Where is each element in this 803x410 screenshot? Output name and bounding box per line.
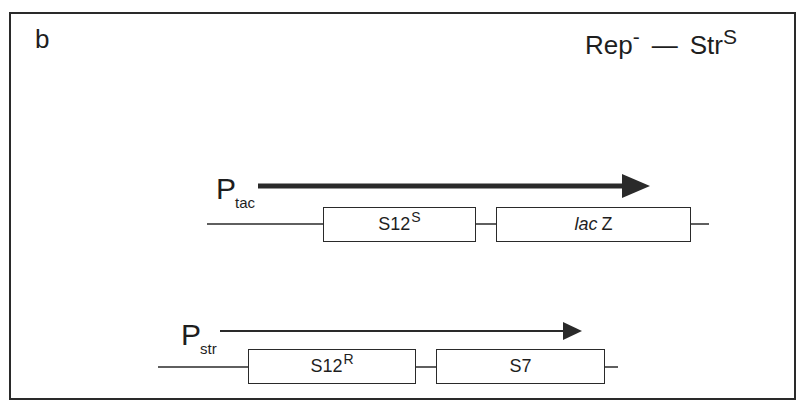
promoter-subscript: str [200,340,217,357]
gene-superscript: S [411,209,420,225]
gene-box-s12r: S12R [248,349,416,384]
gene-box-lacz: lacZ [496,207,691,242]
gene-box-s12s: S12S [323,207,476,242]
gene-name: S7 [509,356,531,377]
arrowhead-icon [622,174,650,198]
title-rep: Rep [585,30,633,60]
gene-name: Z [602,214,613,235]
gene-name: S12 [310,356,342,377]
promoter-letter: P [181,318,201,351]
phenotype-title: Rep-—StrS [585,30,737,61]
gene-name: S12 [378,214,410,235]
promoter-letter: P [216,172,236,205]
gene-italic-prefix: lac [574,214,597,235]
gene-box-s7: S7 [436,349,605,384]
title-str-sup: S [723,25,737,48]
gene-superscript: R [343,351,353,367]
promoter-str-label: Pstr [181,318,217,352]
title-dash: — [652,30,678,60]
arrowhead-icon [563,322,582,340]
promoter-subscript: tac [235,194,255,211]
title-rep-sup: - [633,25,640,48]
panel-label: b [35,24,49,55]
title-str: Str [690,30,723,60]
promoter-tac-label: Ptac [216,172,255,206]
